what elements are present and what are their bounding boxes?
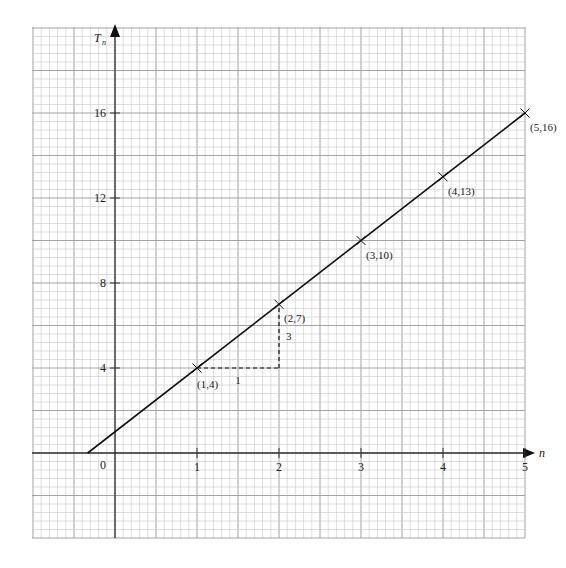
- x-tick-label: 1: [194, 460, 200, 474]
- point-label: (2,7): [284, 312, 305, 325]
- labels: 123454812160nTn(1,4)(2,7)(3,10)(4,13)(5,…: [94, 31, 557, 474]
- data-series: [88, 109, 530, 454]
- y-tick-label: 12: [94, 191, 106, 205]
- point-label: (4,13): [448, 185, 475, 198]
- point-label: (5,16): [530, 121, 557, 134]
- y-axis-label-subscript: n: [102, 38, 106, 47]
- y-axis-arrow-icon: [110, 24, 120, 37]
- point-label: (1,4): [197, 378, 218, 391]
- x-tick-label: 5: [522, 460, 528, 474]
- x-axis-label: n: [539, 446, 545, 460]
- x-tick-label: 3: [358, 460, 364, 474]
- x-tick-label: 4: [440, 460, 446, 474]
- point-label: (3,10): [366, 249, 393, 262]
- y-tick-label: 8: [100, 276, 106, 290]
- chart: 13 123454812160nTn(1,4)(2,7)(3,10)(4,13)…: [0, 0, 566, 568]
- x-tick-label: 2: [276, 460, 282, 474]
- y-tick-label: 16: [94, 106, 106, 120]
- rise-label: 3: [286, 330, 292, 342]
- origin-label: 0: [100, 458, 106, 472]
- y-axis-label: T: [94, 31, 102, 45]
- slope-triangle: 13: [197, 304, 292, 386]
- run-label: 1: [235, 374, 241, 386]
- y-tick-label: 4: [100, 361, 106, 375]
